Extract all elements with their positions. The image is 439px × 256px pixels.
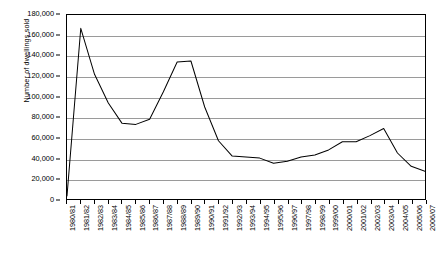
x-axis-tick-mark — [191, 200, 192, 204]
x-axis-tick-mark — [329, 200, 330, 204]
y-axis-tick-mark — [56, 76, 60, 77]
x-axis-tick-label: 1991/92 — [222, 205, 230, 231]
x-axis-tick-mark — [149, 200, 150, 204]
x-axis-tick-label: 2003/04 — [388, 205, 396, 231]
x-axis-tick-mark — [66, 200, 67, 204]
x-axis-tick-label: 1980/81 — [69, 205, 77, 231]
y-axis-tick-label: 40,000 — [31, 155, 54, 163]
plot-area — [66, 14, 426, 200]
x-axis-tick-mark — [301, 200, 302, 204]
y-axis-tick-label: 180,000 — [27, 10, 54, 18]
x-axis-tick-label: 1999/00 — [332, 205, 340, 231]
y-axis-tick-mark — [56, 158, 60, 159]
y-axis-tick-label: 80,000 — [31, 113, 54, 121]
y-axis-tick-mark — [56, 14, 60, 15]
x-axis-tick-mark — [274, 200, 275, 204]
x-axis-tick-label: 1987/88 — [166, 205, 174, 231]
x-axis-tick-mark — [412, 200, 413, 204]
y-axis-tick-label: 100,000 — [27, 93, 54, 101]
y-axis-tick-mark — [56, 117, 60, 118]
y-axis-tick-mark — [56, 179, 60, 180]
x-axis-tick-mark — [426, 200, 427, 204]
x-axis-tick-label: 1986/87 — [152, 205, 160, 231]
y-axis-tick-label: 20,000 — [31, 175, 54, 183]
x-axis-tick-mark — [315, 200, 316, 204]
y-axis-tick-label: 160,000 — [27, 31, 54, 39]
x-axis-tick-mark — [135, 200, 136, 204]
y-axis-tick-mark — [56, 34, 60, 35]
x-axis-tick-label: 2001/02 — [360, 205, 368, 231]
y-axis-tick-labels: 020,00040,00060,00080,000100,000120,0001… — [0, 0, 62, 210]
data-series-line — [67, 15, 425, 199]
x-axis-tick-label: 1984/85 — [125, 205, 133, 231]
x-axis-tick-label: 1981/82 — [83, 205, 91, 231]
x-axis-tick-label: 2004/05 — [402, 205, 410, 231]
x-axis-tick-label: 1990/91 — [208, 205, 216, 231]
x-axis-tick-mark — [94, 200, 95, 204]
x-axis-tick-label: 1997/98 — [305, 205, 313, 231]
x-axis-tick-mark — [246, 200, 247, 204]
x-axis-tick-label: 2006/07 — [429, 205, 437, 231]
x-axis-tick-label: 1993/94 — [249, 205, 257, 231]
x-axis-tick-mark — [121, 200, 122, 204]
x-axis-tick-mark — [163, 200, 164, 204]
x-axis-tick-mark — [204, 200, 205, 204]
x-axis-tick-mark — [343, 200, 344, 204]
x-axis-tick-labels: 1980/811981/821982/831983/841984/851985/… — [66, 205, 426, 255]
y-axis-tick-mark — [56, 55, 60, 56]
y-axis-tick-mark — [56, 200, 60, 201]
y-axis-tick-label: 140,000 — [27, 51, 54, 59]
x-axis-tick-label: 1994/95 — [263, 205, 271, 231]
y-axis-tick-label: 120,000 — [27, 72, 54, 80]
x-axis-tick-label: 1983/84 — [111, 205, 119, 231]
x-axis-tick-mark — [371, 200, 372, 204]
x-axis-tick-label: 1982/83 — [97, 205, 105, 231]
x-axis-tick-mark — [232, 200, 233, 204]
x-axis-tick-label: 1996/97 — [291, 205, 299, 231]
x-axis-tick-mark — [80, 200, 81, 204]
x-axis-tick-mark — [384, 200, 385, 204]
x-axis-tick-mark — [260, 200, 261, 204]
x-axis-tick-mark — [357, 200, 358, 204]
x-axis-tick-label: 1989/90 — [194, 205, 202, 231]
x-axis-tick-mark — [218, 200, 219, 204]
x-axis-tick-label: 1992/93 — [236, 205, 244, 231]
y-axis-tick-mark — [56, 96, 60, 97]
x-axis-tick-mark — [177, 200, 178, 204]
y-axis-tick-label: 0 — [50, 196, 54, 204]
x-axis-tick-label: 2002/03 — [374, 205, 382, 231]
x-axis-tick-label: 1985/86 — [139, 205, 147, 231]
line-chart: Number of dwellings sold 020,00040,00060… — [0, 0, 439, 256]
x-axis-tick-label: 1995/96 — [277, 205, 285, 231]
x-axis-tick-label: 1988/89 — [180, 205, 188, 231]
x-axis-tick-mark — [398, 200, 399, 204]
y-axis-tick-label: 60,000 — [31, 134, 54, 142]
x-axis-tick-mark — [288, 200, 289, 204]
x-axis-tick-mark — [108, 200, 109, 204]
x-axis-tick-label: 2005/06 — [416, 205, 424, 231]
y-axis-tick-mark — [56, 138, 60, 139]
x-axis-tick-label: 2000/01 — [346, 205, 354, 231]
x-axis-tick-label: 1998/99 — [319, 205, 327, 231]
